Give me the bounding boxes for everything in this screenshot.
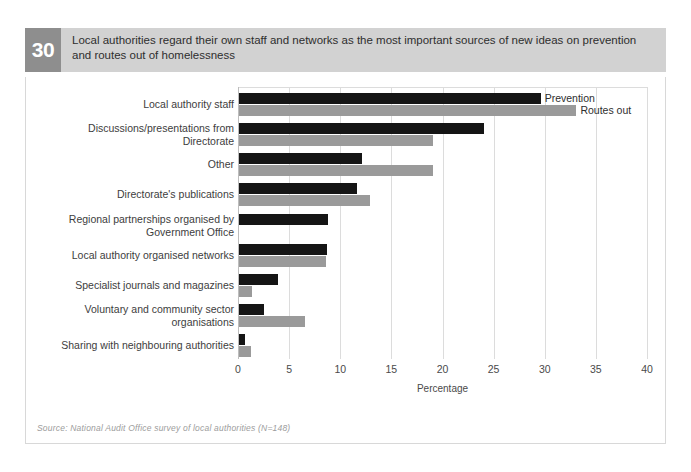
category-label: Regional partnerships organised by Gover… [34,213,234,238]
bar-routes-out [239,256,326,267]
bar-routes-out [239,346,251,357]
chart-frame: Local authority staffDiscussions/present… [25,77,666,444]
x-tick-label-15: 15 [376,363,406,375]
bar-routes-out [239,135,433,146]
x-tick-label-35: 35 [581,363,611,375]
bar-routes-out [239,105,576,116]
bar-prevention [239,93,541,104]
x-tick-label-20: 20 [428,363,458,375]
bar-routes-out [239,286,252,297]
category-label: Sharing with neighbouring authorities [34,339,234,352]
figure-30: 30 Local authorities regard their own st… [0,0,691,472]
category-label: Voluntary and community sector organisat… [34,303,234,328]
bar-prevention [239,214,328,225]
x-tick-label-5: 5 [274,363,304,375]
category-label: Other [34,158,234,171]
bar-routes-out [239,195,370,206]
category-label: Specialist journals and magazines [34,279,234,292]
figure-header: 30 Local authorities regard their own st… [25,28,666,72]
figure-number-badge: 30 [25,28,61,72]
figure-title: Local authorities regard their own staff… [61,28,666,72]
bar-routes-out [239,316,305,327]
category-label: Discussions/presentations from Directora… [34,122,234,147]
bar-prevention [239,123,484,134]
bar-row [238,274,647,297]
bar-prevention [239,153,362,164]
x-tick-label-30: 30 [530,363,560,375]
bar-row [238,123,647,146]
x-tick-label-10: 10 [325,363,355,375]
plot-area: Prevention Routes out 0510152025303540 P… [238,87,647,359]
bar-prevention [239,274,278,285]
category-label: Local authority organised networks [34,249,234,262]
bar-prevention [239,183,357,194]
gridline-40 [647,87,648,359]
x-tick-label-0: 0 [223,363,253,375]
bar-prevention [239,304,264,315]
bar-prevention [239,244,327,255]
bar-row [238,334,647,357]
x-axis-label: Percentage [238,383,647,394]
bar-row [238,183,647,206]
bar-row [238,214,647,237]
bar-prevention [239,334,245,345]
category-label: Directorate's publications [34,188,234,201]
bar-row [238,153,647,176]
x-tick-label-40: 40 [632,363,662,375]
source-note: Source: National Audit Office survey of … [37,423,290,433]
bar-routes-out [239,165,433,176]
category-axis-labels: Local authority staffDiscussions/present… [30,87,234,359]
category-label: Local authority staff [34,98,234,111]
bar-row [238,93,647,116]
bar-row [238,304,647,327]
bar-row [238,244,647,267]
x-tick-label-25: 25 [479,363,509,375]
